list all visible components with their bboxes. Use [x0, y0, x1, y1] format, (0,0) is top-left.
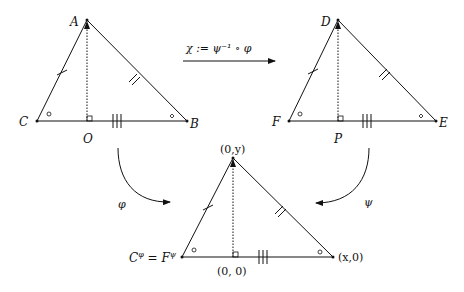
label-a: A: [69, 15, 79, 29]
triangle-normalized: (0,y) (0, 0) (x,0) Cφ = Fψ: [129, 143, 363, 278]
psi-map-arrow: ψ: [316, 148, 373, 209]
angle-mark-f: [298, 112, 302, 116]
label-p: P: [333, 132, 343, 146]
label-c-phi-equals-f-psi: Cφ = Fψ: [129, 250, 177, 265]
label-o: O: [83, 132, 93, 146]
single-tick-mark: [308, 69, 318, 74]
label-c: C: [19, 115, 28, 129]
label-e: E: [438, 116, 448, 130]
angle-mark-b: [170, 114, 174, 118]
angle-mark-right: [318, 250, 322, 254]
phi-label: φ: [118, 198, 126, 211]
label-origin: (0, 0): [217, 265, 247, 278]
label-apex-0y: (0,y): [220, 143, 245, 156]
angle-mark-left: [192, 248, 196, 252]
label-b: B: [189, 117, 199, 131]
label-d: D: [320, 15, 331, 29]
chi-map-arrow: χ := ψ⁻¹ ∘ φ: [183, 42, 275, 61]
angle-mark-e: [419, 114, 423, 118]
chi-label: χ := ψ⁻¹ ∘ φ: [185, 42, 252, 55]
psi-label: ψ: [364, 196, 373, 209]
angle-mark-c: [47, 112, 51, 116]
label-x0: (x,0): [338, 251, 363, 264]
label-f: F: [271, 115, 281, 129]
triangle-dfe: D F P E: [271, 15, 448, 146]
triangle-acb: A C O B: [19, 15, 199, 146]
diagram-canvas: A C O B χ := ψ⁻¹ ∘ φ D F P E φ: [0, 0, 464, 292]
phi-map-arrow: φ: [118, 148, 170, 211]
